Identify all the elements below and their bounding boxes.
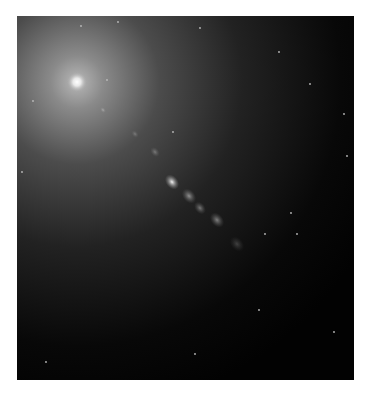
star — [278, 51, 280, 53]
star — [296, 233, 298, 235]
star — [346, 155, 348, 157]
star — [80, 25, 82, 27]
star — [117, 21, 119, 23]
star — [32, 100, 34, 102]
star — [290, 212, 292, 214]
galaxy-core — [67, 72, 87, 92]
star — [309, 83, 311, 85]
star — [106, 79, 108, 81]
galaxy-photo — [17, 16, 354, 380]
star — [199, 27, 201, 29]
star — [172, 131, 174, 133]
star — [45, 361, 47, 363]
galaxy-svg — [17, 16, 354, 380]
star — [333, 331, 335, 333]
star — [343, 113, 345, 115]
star — [258, 309, 260, 311]
star — [264, 233, 266, 235]
star — [194, 353, 196, 355]
star — [21, 171, 23, 173]
